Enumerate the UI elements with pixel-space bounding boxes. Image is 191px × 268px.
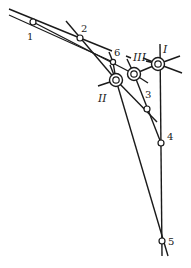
line-1-2 — [9, 9, 80, 38]
node-3 — [144, 106, 150, 112]
label-joint-I: I — [162, 43, 168, 56]
node-4 — [158, 140, 164, 146]
line-I-4-5 — [160, 44, 162, 256]
label-5: 5 — [168, 236, 174, 247]
joint-III-inner — [131, 71, 137, 77]
label-3: 3 — [145, 89, 151, 100]
joint-II-inner — [113, 77, 119, 83]
diagram-lines — [9, 9, 182, 256]
node-1 — [30, 19, 36, 25]
node-6 — [110, 59, 115, 64]
label-joint-II: II — [97, 92, 107, 105]
label-4: 4 — [167, 131, 173, 142]
line-2-II — [66, 21, 116, 80]
node-5 — [159, 238, 165, 244]
linkage-diagram: 1 2 6 3 4 5 I II III — [0, 0, 191, 268]
line-6-label-to-III-label — [126, 56, 131, 58]
joint-I-inner — [155, 61, 161, 67]
label-joint-III: III — [132, 51, 147, 64]
label-2: 2 — [81, 23, 87, 34]
node-2 — [77, 35, 83, 41]
label-1: 1 — [27, 31, 33, 42]
label-6: 6 — [114, 47, 120, 58]
